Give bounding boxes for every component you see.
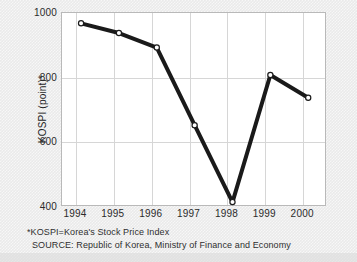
x-axis-tick-1997: 1997 — [177, 208, 200, 219]
chart-notes: *KOSPI=Korea's Stock Price Index SOURCE:… — [27, 226, 349, 252]
data-point-1999 — [268, 72, 273, 77]
x-axis-tick-1996: 1996 — [139, 208, 162, 219]
x-axis-tick-1995: 1995 — [101, 208, 124, 219]
x-axis-tick-1998: 1998 — [215, 208, 238, 219]
y-axis-tick-labels: 4006008001000 — [26, 12, 57, 206]
data-point-2000 — [306, 95, 311, 100]
data-point-1997 — [192, 123, 197, 128]
x-axis-tick-1994: 1994 — [63, 208, 86, 219]
data-point-1996 — [154, 45, 159, 50]
x-axis-tick-2000: 2000 — [291, 208, 314, 219]
y-axis-tick-800: 800 — [40, 71, 57, 82]
x-axis-tick-1999: 1999 — [253, 208, 276, 219]
y-axis-tick-400: 400 — [40, 201, 57, 212]
series-line — [81, 23, 308, 202]
source-line: SOURCE: Republic of Korea, Ministry of F… — [27, 239, 349, 252]
plot-wrapper — [61, 12, 326, 206]
footnote-kospi-definition: *KOSPI=Korea's Stock Price Index — [27, 226, 349, 239]
data-point-1995 — [116, 30, 121, 35]
data-point-1998 — [230, 200, 235, 205]
y-axis-tick-600: 600 — [40, 136, 57, 147]
y-axis-tick-1000: 1000 — [34, 7, 57, 18]
data-point-1994 — [78, 21, 83, 26]
x-axis-tick-labels: 1994199519961997199819992000 — [61, 208, 326, 224]
kospi-line-series — [61, 12, 326, 206]
chart-figure: KOSPI (point)* 4006008001000 19941995199… — [0, 0, 357, 262]
